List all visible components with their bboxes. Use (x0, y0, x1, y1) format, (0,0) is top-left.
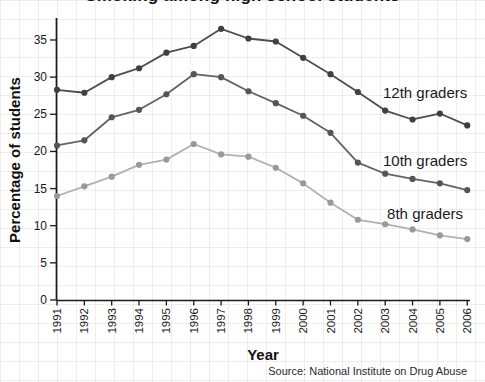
series-marker-0 (163, 50, 169, 56)
series-marker-1 (437, 180, 443, 186)
x-tick-label: 2002 (352, 308, 364, 334)
x-tick-label: 2000 (297, 308, 309, 334)
series-marker-1 (81, 137, 87, 143)
series-marker-2 (54, 193, 60, 199)
series-marker-1 (218, 74, 224, 80)
series-marker-1 (245, 88, 251, 94)
series-marker-0 (409, 116, 415, 122)
series-marker-2 (163, 157, 169, 163)
series-marker-2 (327, 200, 333, 206)
series-marker-1 (464, 187, 470, 193)
x-tick-label: 1995 (160, 308, 172, 334)
series-marker-1 (300, 113, 306, 119)
y-tick-label: 35 (34, 33, 48, 47)
x-tick-label: 2006 (461, 308, 473, 334)
x-tick-label: 1991 (51, 308, 63, 334)
series-line-0 (57, 29, 467, 126)
series-marker-0 (218, 26, 224, 32)
series-marker-2 (81, 183, 87, 189)
series-marker-0 (136, 65, 142, 71)
series-marker-2 (464, 236, 470, 242)
series-marker-1 (191, 71, 197, 77)
series-marker-0 (273, 38, 279, 44)
series-marker-1 (409, 176, 415, 182)
series-marker-1 (54, 142, 60, 148)
series-marker-0 (464, 122, 470, 128)
series-marker-0 (300, 55, 306, 61)
series-marker-0 (81, 90, 87, 96)
chart-plot-area: 0510152025303519911992199319941995199619… (0, 0, 485, 382)
x-tick-label: 1993 (106, 308, 118, 334)
series-marker-2 (437, 232, 443, 238)
series-marker-1 (355, 159, 361, 165)
series-marker-2 (136, 162, 142, 168)
series-marker-2 (273, 165, 279, 171)
x-tick-label: 1996 (188, 308, 200, 334)
series-label-12th-graders: 12th graders (383, 84, 463, 101)
series-marker-0 (109, 74, 115, 80)
y-tick-label: 0 (40, 293, 47, 307)
series-marker-2 (300, 180, 306, 186)
x-tick-label: 1997 (215, 308, 227, 334)
series-marker-1 (163, 91, 169, 97)
series-marker-2 (382, 221, 388, 227)
series-marker-0 (437, 110, 443, 116)
series-marker-0 (54, 87, 60, 93)
series-marker-0 (191, 43, 197, 49)
x-tick-label: 2004 (407, 307, 419, 333)
series-marker-2 (191, 141, 197, 147)
x-tick-label: 2001 (325, 308, 337, 334)
series-marker-1 (327, 130, 333, 136)
series-marker-2 (355, 217, 361, 223)
series-marker-0 (355, 89, 361, 95)
x-tick-label: 1992 (78, 308, 90, 334)
series-marker-1 (273, 100, 279, 106)
series-marker-1 (109, 114, 115, 120)
x-tick-label: 1994 (133, 307, 145, 333)
series-marker-2 (409, 226, 415, 232)
source-note: Source: National Institute on Drug Abuse (268, 365, 467, 377)
x-tick-label: 2003 (379, 308, 391, 334)
y-tick-label: 5 (40, 256, 47, 270)
series-marker-0 (245, 35, 251, 41)
y-tick-label: 25 (34, 107, 48, 121)
series-marker-1 (382, 171, 388, 177)
series-marker-1 (136, 107, 142, 113)
x-axis-title: Year (56, 346, 470, 363)
x-tick-label: 2005 (434, 308, 446, 334)
series-label-10th-graders: 10th graders (383, 152, 463, 169)
series-marker-0 (382, 107, 388, 113)
series-marker-2 (245, 154, 251, 160)
y-tick-label: 30 (34, 70, 48, 84)
series-marker-0 (327, 71, 333, 77)
y-tick-label: 20 (34, 144, 48, 158)
y-tick-label: 15 (34, 182, 48, 196)
series-marker-2 (109, 174, 115, 180)
y-tick-label: 10 (34, 219, 48, 233)
x-tick-label: 1999 (270, 308, 282, 334)
x-tick-label: 1998 (242, 308, 254, 334)
series-label-8th-graders: 8th graders (383, 205, 463, 222)
series-marker-2 (218, 151, 224, 157)
